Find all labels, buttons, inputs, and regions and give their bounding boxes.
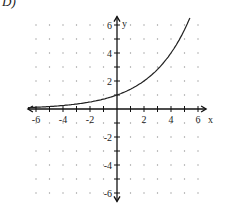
svg-text:6: 6 <box>196 114 201 125</box>
svg-text:-4: -4 <box>59 114 67 125</box>
graph: -6-4-2246642-2-4-6 x y <box>0 0 225 211</box>
svg-text:4: 4 <box>107 48 112 59</box>
svg-text:6: 6 <box>107 20 112 31</box>
svg-text:-6: -6 <box>32 114 40 125</box>
svg-text:-6: -6 <box>104 188 112 199</box>
x-axis-label: x <box>208 114 213 125</box>
svg-text:-4: -4 <box>104 160 112 171</box>
svg-text:2: 2 <box>107 76 112 87</box>
y-axis-label: y <box>122 18 127 29</box>
svg-text:-2: -2 <box>104 132 112 143</box>
svg-text:-2: -2 <box>86 114 94 125</box>
exponential-curve <box>28 18 190 108</box>
svg-text:4: 4 <box>169 114 174 125</box>
svg-text:2: 2 <box>142 114 147 125</box>
